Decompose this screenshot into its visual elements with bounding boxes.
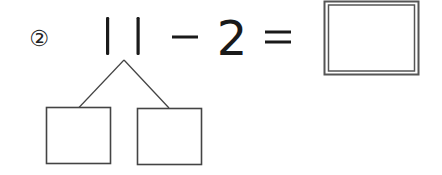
math-worksheet-problem: ② 2 (0, 0, 442, 175)
minuend-11 (106, 17, 140, 55)
decomposition-right-box[interactable] (138, 109, 202, 165)
answer-box[interactable] (325, 2, 419, 75)
problem-number: ② (29, 26, 49, 51)
decomposition-branches (79, 60, 169, 108)
decomposition-left-box[interactable] (47, 108, 111, 164)
minus-sign (172, 36, 198, 39)
equals-sign (265, 31, 291, 44)
subtrahend: 2 (217, 10, 248, 66)
